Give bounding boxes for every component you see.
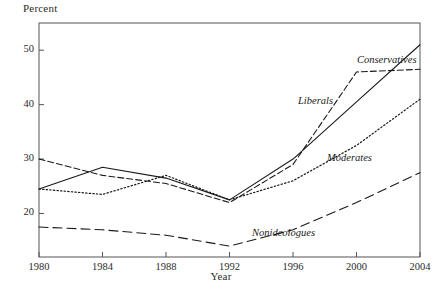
- x-tick-1980: 1980: [19, 261, 59, 272]
- x-tick-1988: 1988: [146, 261, 186, 272]
- y-tick-20: 20: [12, 206, 34, 217]
- x-tick-1996: 1996: [273, 261, 313, 272]
- x-tick-2000: 2000: [337, 261, 377, 272]
- y-tick-30: 30: [12, 152, 34, 163]
- series-line-conservatives: [39, 45, 420, 200]
- series-line-nonideologues: [39, 173, 420, 246]
- plot-area: [0, 0, 442, 295]
- series-label-liberals: Liberals: [298, 95, 333, 106]
- x-tick-1984: 1984: [83, 261, 123, 272]
- y-tick-50: 50: [12, 43, 34, 54]
- series-label-nonideologues: Nonideologues: [252, 227, 315, 238]
- x-tick-1992: 1992: [210, 261, 250, 272]
- y-tick-40: 40: [12, 98, 34, 109]
- series-line-moderates: [39, 99, 420, 200]
- x-tick-2004: 2004: [400, 261, 440, 272]
- line-chart: Percent Year 20304050 198019841988199219…: [0, 0, 442, 295]
- series-line-liberals: [39, 69, 420, 202]
- series-label-moderates: Moderates: [327, 152, 372, 163]
- series-label-conservatives: Conservatives: [357, 54, 417, 65]
